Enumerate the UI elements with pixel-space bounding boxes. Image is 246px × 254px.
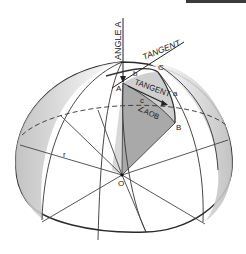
label-angle-a: ANGLE A <box>113 21 123 60</box>
label-vertex-a: A <box>116 84 122 93</box>
center-point <box>120 173 123 176</box>
label-side-a: a <box>173 89 178 98</box>
label-tangent-top: TANGENT <box>141 37 183 62</box>
label-side-b: b <box>133 69 138 78</box>
label-vertex-c: C <box>158 63 164 72</box>
label-vertex-b: B <box>176 123 181 132</box>
hemisphere-diagram: ANGLE A TANGENT b C A TANGENT a c ∠AOB B… <box>0 0 246 254</box>
label-center: O <box>118 179 124 188</box>
label-radius: r <box>63 150 66 159</box>
